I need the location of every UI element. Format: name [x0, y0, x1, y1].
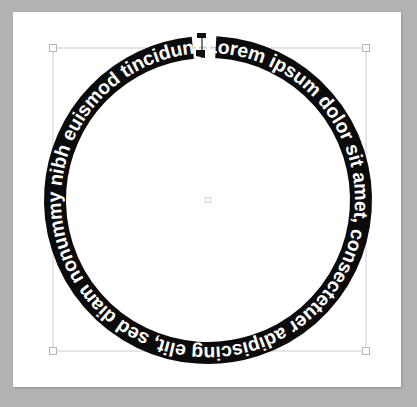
handle-bottom-right[interactable]: [363, 348, 370, 355]
vector-artwork-svg[interactable]: Lorem ipsum dolor sit amet, consectetuer…: [0, 0, 417, 407]
object-center-marker: [206, 198, 211, 203]
handle-bottom-left[interactable]: [50, 348, 57, 355]
handle-top-left[interactable]: [50, 45, 57, 52]
circular-text-path: Lorem ipsum dolor sit amet, consectetuer…: [0, 0, 373, 365]
application-canvas: Lorem ipsum dolor sit amet, consectetuer…: [0, 0, 417, 407]
handle-top-right[interactable]: [363, 45, 370, 52]
circular-text-label[interactable]: Lorem ipsum dolor sit amet, consectetuer…: [0, 0, 373, 365]
artwork-stage[interactable]: Lorem ipsum dolor sit amet, consectetuer…: [0, 0, 417, 407]
